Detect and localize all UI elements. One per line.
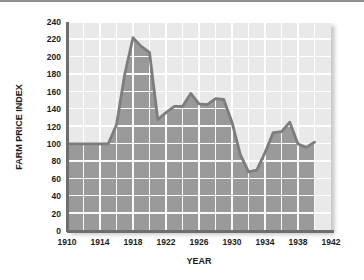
y-tick-label: 100 [47, 139, 61, 149]
y-tick-label: 20 [52, 209, 62, 219]
y-tick-label: 140 [47, 104, 61, 114]
y-axis-tick-labels: 020406080100120140160180200220240 [47, 17, 61, 236]
x-tick-label: 1910 [58, 237, 77, 247]
y-tick-label: 120 [47, 122, 61, 132]
x-tick-label: 1934 [256, 237, 275, 247]
farm-price-index-chart: 020406080100120140160180200220240 191019… [0, 0, 364, 280]
x-axis-title: YEAR [186, 256, 212, 266]
y-tick-label: 0 [56, 226, 61, 236]
y-tick-label: 200 [47, 52, 61, 62]
y-tick-label: 60 [52, 174, 62, 184]
y-axis-title: FARM PRICE INDEX [14, 84, 24, 170]
y-tick-label: 160 [47, 87, 61, 97]
x-tick-label: 1914 [91, 237, 110, 247]
y-tick-label: 240 [47, 17, 61, 27]
y-tick-label: 180 [47, 69, 61, 79]
chart-figure: 020406080100120140160180200220240 191019… [0, 0, 364, 280]
x-tick-label: 1938 [289, 237, 308, 247]
x-tick-label: 1930 [223, 237, 242, 247]
x-tick-label: 1942 [322, 237, 341, 247]
y-tick-label: 220 [47, 34, 61, 44]
x-tick-label: 1922 [157, 237, 176, 247]
x-tick-label: 1918 [124, 237, 143, 247]
y-tick-label: 40 [52, 191, 62, 201]
x-axis-tick-labels: 191019141918192219261930193419381942 [58, 237, 341, 247]
x-tick-label: 1926 [190, 237, 209, 247]
y-tick-label: 80 [52, 156, 62, 166]
